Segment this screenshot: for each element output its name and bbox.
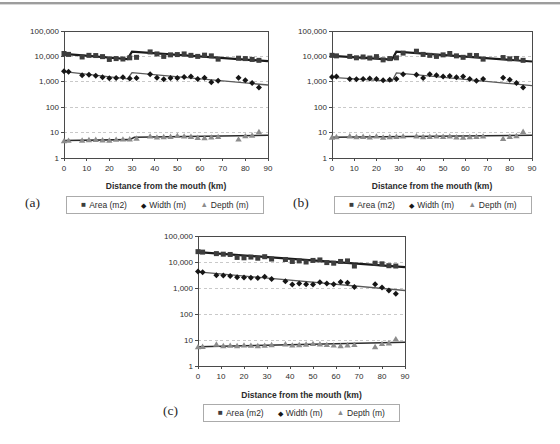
area-data-point (250, 57, 255, 62)
width-data-point (262, 274, 268, 280)
width-data-point (147, 71, 153, 77)
area-data-point (114, 56, 119, 61)
depth-data-point (213, 341, 219, 346)
area-data-point (161, 54, 166, 59)
width-data-point (353, 76, 359, 82)
y-tick-label: 100,000 (164, 232, 193, 241)
legend-label-width: Width (m) (149, 200, 186, 210)
area-data-point (62, 51, 67, 56)
y-tick-label: 1,000 (39, 77, 60, 86)
width-data-point (127, 75, 133, 81)
chart-b-legend: ■ Area (m2) ◆ Width (m) ▲ Depth (m) (334, 196, 532, 214)
width-data-point (360, 76, 366, 82)
page-top-divider (0, 2, 560, 5)
area-data-point (290, 259, 295, 264)
width-data-point (380, 77, 386, 83)
width-data-point (393, 291, 399, 297)
x-tick-label: 30 (263, 372, 272, 381)
depth-data-point (227, 342, 233, 347)
area-data-point (209, 53, 214, 58)
area-data-point (93, 53, 98, 58)
width-data-point (200, 269, 206, 275)
area-data-point (427, 53, 432, 58)
area-data-point (168, 52, 173, 57)
width-data-point (86, 72, 92, 78)
chart-b-panel-label: (b) (293, 195, 309, 211)
depth-data-point (282, 341, 288, 346)
area-data-point (182, 51, 187, 56)
area-data-point (175, 52, 180, 57)
area-data-point (86, 53, 91, 58)
area-data-point (421, 52, 426, 57)
x-tick-label: 0 (196, 372, 201, 381)
y-tick-label: 100 (314, 103, 328, 112)
width-data-point (453, 74, 459, 80)
depth-data-point (373, 133, 379, 138)
area-data-point (447, 51, 452, 56)
chart-panel-c: 01020304050607080901101001,00010,000100,… (134, 222, 426, 424)
figure-page: 01020304050607080901101001,00010,000100,… (0, 0, 560, 444)
depth-data-point (372, 344, 378, 349)
area-data-point (347, 54, 352, 59)
area-data-point (387, 56, 392, 61)
area-data-point (228, 252, 233, 257)
x-tick-label: 70 (483, 164, 492, 173)
width-data-point (134, 75, 140, 81)
chart-c-x-axis-title: Distance from the mouth (km) (198, 390, 405, 400)
area-data-point (367, 56, 372, 61)
area-data-point (501, 55, 506, 60)
y-tick-label: 100,000 (298, 27, 327, 36)
x-tick-label: 20 (240, 372, 249, 381)
area-data-point (248, 255, 253, 260)
width-data-point (347, 76, 353, 82)
diamond-marker-icon: ◆ (278, 410, 283, 417)
legend-label-depth: Depth (m) (211, 200, 249, 210)
area-data-point (381, 57, 386, 62)
x-tick-label: 50 (309, 372, 318, 381)
width-data-point (256, 84, 262, 90)
width-data-point (324, 280, 330, 286)
x-tick-label: 10 (217, 372, 226, 381)
area-data-point (345, 258, 350, 263)
depth-data-point (393, 336, 399, 341)
width-data-point (440, 74, 446, 80)
depth-data-point (241, 342, 247, 347)
x-tick-label: 70 (355, 372, 364, 381)
x-tick-label: 10 (350, 164, 359, 173)
x-tick-label: 70 (218, 164, 227, 173)
area-data-point (374, 54, 379, 59)
area-data-point (373, 261, 378, 266)
x-tick-label: 90 (401, 372, 410, 381)
y-tick-label: 1 (189, 362, 194, 371)
y-tick-label: 10,000 (303, 52, 328, 61)
square-marker-icon: ■ (218, 409, 223, 417)
area-data-point (334, 53, 339, 58)
area-data-point (330, 53, 335, 58)
legend-item-depth: ▲ Depth (m) (468, 200, 516, 210)
width-data-point (379, 284, 385, 290)
y-tick-label: 1,000 (307, 77, 328, 86)
area-data-point (514, 56, 519, 61)
area-data-point (269, 257, 274, 262)
width-data-point (473, 78, 479, 84)
area-data-point (283, 257, 288, 262)
area-data-point (434, 54, 439, 59)
width-data-point (269, 276, 275, 282)
width-data-point (467, 76, 473, 82)
area-data-point (338, 259, 343, 264)
width-data-point (181, 74, 187, 80)
legend-label-area: Area (m2) (357, 200, 395, 210)
depth-data-point (256, 129, 262, 134)
triangle-marker-icon: ▲ (468, 201, 475, 209)
area-data-point (214, 251, 219, 256)
area-data-point (216, 57, 221, 62)
width-data-point (400, 71, 406, 77)
chart-c-plot: 01020304050607080901101001,00010,000100,… (134, 222, 426, 397)
width-data-point (215, 78, 221, 84)
area-data-point (127, 55, 132, 60)
width-data-point (195, 76, 201, 82)
x-tick-label: 30 (128, 164, 137, 173)
y-tick-label: 10,000 (35, 52, 60, 61)
x-tick-label: 90 (528, 164, 537, 173)
y-tick-label: 1 (55, 154, 60, 163)
